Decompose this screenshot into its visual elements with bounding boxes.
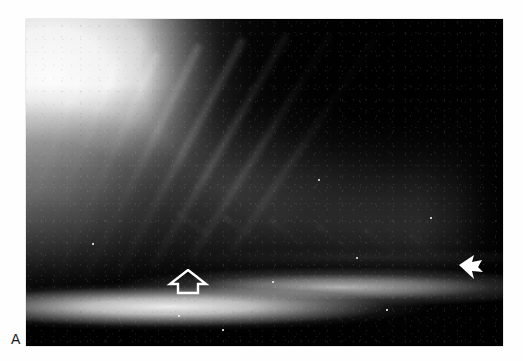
panel-label: A (11, 330, 27, 348)
film-artifact-spot (386, 309, 388, 311)
lateral-thoracic-radiograph (26, 19, 503, 346)
film-artifact-spot (430, 217, 432, 219)
solid-arrow-marker (458, 254, 484, 280)
open-arrow-marker (166, 269, 210, 295)
film-artifact-spot (222, 329, 224, 331)
solid-arrow-icon (458, 254, 484, 280)
figure-page: A (0, 0, 523, 361)
film-artifact-spot (92, 243, 94, 245)
open-arrow-icon (166, 269, 210, 295)
film-artifact-spot (272, 281, 274, 283)
film-artifact-spot (178, 315, 180, 317)
film-artifact-spot (356, 257, 358, 259)
